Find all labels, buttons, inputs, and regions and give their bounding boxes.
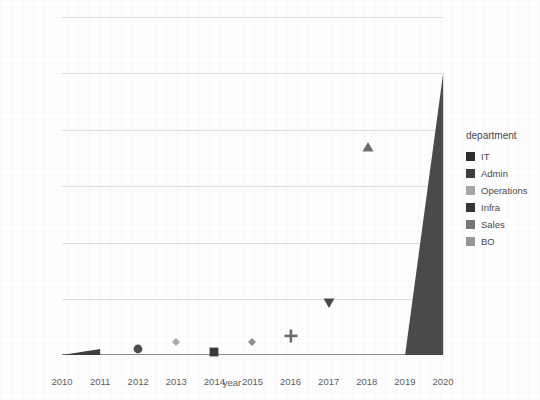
legend-title: department (466, 130, 540, 141)
legend-item-sales[interactable]: Sales (466, 216, 540, 232)
legend-swatch-sales (466, 220, 475, 229)
legend-item-bo[interactable]: BO (466, 233, 540, 249)
legend-swatch-it (466, 152, 475, 161)
series-mark-infra-square (207, 345, 221, 359)
x-tick-2013: 2013 (166, 376, 187, 387)
legend-item-admin[interactable]: Admin (466, 165, 540, 181)
series-mark-it-area-triangle (367, 73, 447, 356)
series-mark-bo-plus (283, 328, 299, 344)
x-tick-2014: 2014 (204, 376, 225, 387)
legend-swatch-bo (466, 237, 475, 246)
x-tick-2016: 2016 (280, 376, 301, 387)
legend-item-operations[interactable]: Operations (466, 182, 540, 198)
series-mark-admin-circle (131, 342, 145, 356)
x-tick-2020: 2020 (432, 376, 453, 387)
legend-item-infra[interactable]: Infra (466, 199, 540, 215)
x-tick-2011: 2011 (90, 376, 110, 387)
x-tick-2018: 2018 (356, 376, 377, 387)
legend-label-sales: Sales (481, 219, 505, 230)
legend-label-infra: Infra (481, 202, 500, 213)
series-mark-it-area (62, 317, 104, 357)
series-mark-operations-diamond (169, 335, 183, 349)
chart-canvas: 180M 150M 120M 90M 60M 30M 0 amount year (0, 0, 540, 400)
legend-swatch-admin (466, 169, 475, 178)
legend-label-it: IT (481, 151, 489, 162)
series-mark-infra-triangle-down (321, 295, 337, 311)
legend-label-bo: BO (481, 236, 495, 247)
plot-area: 2010 2011 2012 2013 2014 2015 2016 2017 … (62, 17, 443, 355)
x-tick-2017: 2017 (318, 376, 339, 387)
series-mark-sales-diamond (245, 335, 259, 349)
x-tick-2012: 2012 (128, 376, 149, 387)
legend-label-operations: Operations (481, 185, 527, 196)
x-tick-2010: 2010 (51, 376, 72, 387)
legend: department IT Admin Operations Infra Sal… (466, 130, 540, 250)
x-axis-label: year (223, 377, 241, 388)
legend-item-it[interactable]: IT (466, 148, 540, 164)
legend-label-admin: Admin (481, 168, 508, 179)
x-tick-2015: 2015 (242, 376, 263, 387)
x-tick-2019: 2019 (394, 376, 415, 387)
legend-swatch-operations (466, 186, 475, 195)
legend-swatch-infra (466, 203, 475, 212)
gridline-180M (62, 17, 443, 18)
